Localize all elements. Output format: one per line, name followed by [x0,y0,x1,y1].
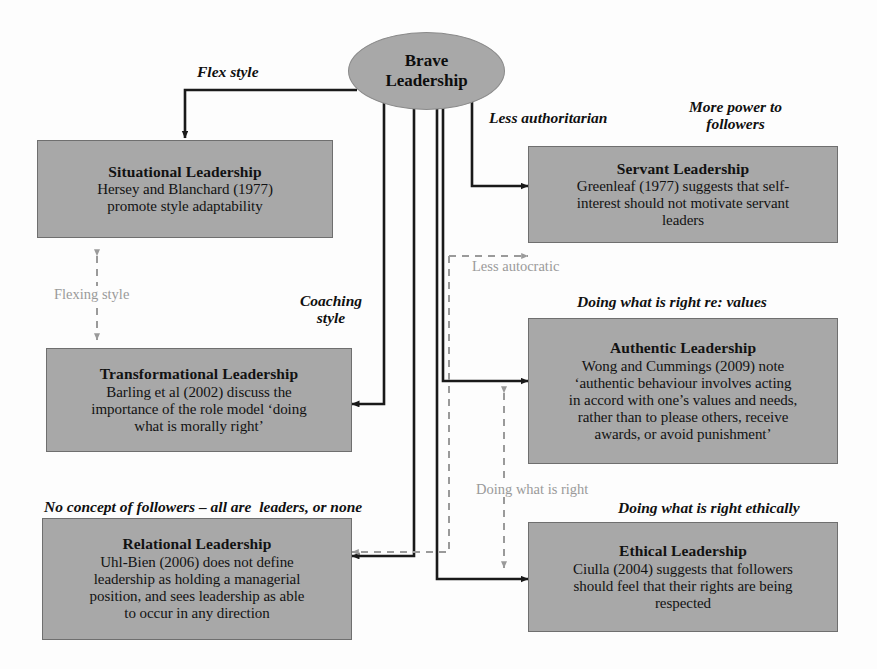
node-relational-leadership[interactable]: Relational Leadership Uhl-Bien (2006) do… [42,518,352,640]
edge-flex-style [185,90,357,138]
node-authentic-leadership[interactable]: Authentic Leadership Wong and Cummings (… [528,318,838,464]
node-ethical-leadership-title: Ethical Leadership [619,542,747,560]
label-coaching-style: Coaching style [300,292,362,327]
node-servant-leadership[interactable]: Servant Leadership Greenleaf (1977) sugg… [528,146,838,243]
node-relational-leadership-title: Relational Leadership [123,535,272,553]
node-brave-leadership-line1: Brave [405,51,448,70]
label-less-autocratic: Less autocratic [472,258,559,274]
node-authentic-leadership-body: Wong and Cummings (2009) note ‘authentic… [569,358,797,443]
node-ethical-leadership[interactable]: Ethical Leadership Ciulla (2004) suggest… [528,522,838,632]
node-transformational-leadership[interactable]: Transformational Leadership Barling et a… [46,348,352,452]
node-relational-leadership-body: Uhl-Bien (2006) does not define leadersh… [90,554,305,622]
node-brave-leadership-line2: Leadership [385,71,467,90]
node-situational-leadership-title: Situational Leadership [108,163,261,181]
label-less-authoritarian: Less authoritarian [489,109,607,126]
edge-less-autocratic-to-relational [352,256,449,552]
label-doing-what-is-right-re-values: Doing what is right re: values [577,293,767,310]
label-more-power-to-followers: More power to followers [689,98,782,133]
node-ethical-leadership-body: Ciulla (2004) suggests that followers sh… [573,561,793,612]
label-flexing-style: Flexing style [52,286,131,302]
node-transformational-leadership-title: Transformational Leadership [100,365,298,383]
edge-to-authentic [443,101,528,381]
label-doing-what-is-right: Doing what is right [474,481,590,497]
node-servant-leadership-body: Greenleaf (1977) suggests that self- int… [577,178,789,229]
node-brave-leadership[interactable]: Brave Leadership [348,32,505,110]
label-doing-what-is-right-ethically: Doing what is right ethically [618,499,800,516]
edge-to-relational [352,101,414,556]
label-flex-style: Flex style [197,63,259,80]
node-situational-leadership[interactable]: Situational Leadership Hersey and Blanch… [37,140,333,238]
edge-to-ethical [437,101,528,579]
edge-less-authoritarian [472,92,528,186]
node-brave-leadership-label: Brave Leadership [385,51,467,92]
edge-coaching-style [352,100,384,404]
node-servant-leadership-title: Servant Leadership [617,160,749,178]
node-transformational-leadership-body: Barling et al (2002) discuss the importa… [91,384,306,435]
node-situational-leadership-body: Hersey and Blanchard (1977) promote styl… [97,181,273,215]
node-authentic-leadership-title: Authentic Leadership [610,339,756,357]
diagram-canvas: Brave Leadership Situational Leadership … [0,0,877,669]
label-no-concept-of-followers: No concept of followers – all are leader… [44,498,362,515]
